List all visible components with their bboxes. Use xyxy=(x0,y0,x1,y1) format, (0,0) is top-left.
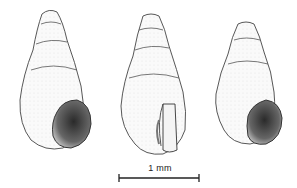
scale-bar-label: 1 mm xyxy=(140,163,180,173)
shell-illustration-figure: 1 mm xyxy=(0,0,297,188)
shell-left-drawing xyxy=(5,0,100,160)
scale-bar xyxy=(117,172,203,184)
shell-right-drawing xyxy=(202,0,297,160)
shell-middle-drawing xyxy=(105,0,200,160)
